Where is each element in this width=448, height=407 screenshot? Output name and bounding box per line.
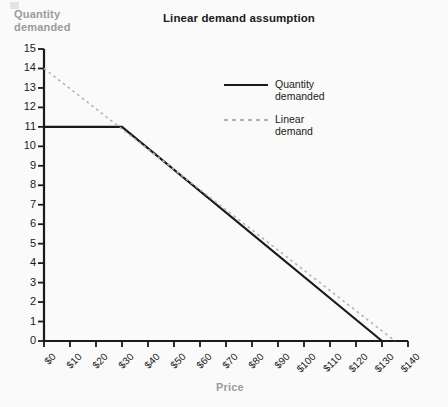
- chart-plot-area: [0, 0, 448, 407]
- y-tick-label: 13: [14, 81, 36, 93]
- legend-label-linear-demand: Linear demand: [275, 113, 313, 137]
- y-tick-label: 4: [14, 256, 36, 268]
- y-tick-label: 6: [14, 217, 36, 229]
- legend-item-quantity-demanded: Quantity demanded: [224, 78, 374, 102]
- y-tick-label: 14: [14, 61, 36, 73]
- chart-panel: Linear demand assumption Quantity demand…: [0, 0, 448, 407]
- legend-label-quantity-demanded: Quantity demanded: [275, 78, 325, 102]
- chart-legend: Quantity demanded Linear demand: [224, 78, 374, 148]
- legend-item-linear-demand: Linear demand: [224, 113, 374, 137]
- y-tick-label: 7: [14, 198, 36, 210]
- y-tick-label: 1: [14, 315, 36, 327]
- y-tick-label: 11: [14, 120, 36, 132]
- y-tick-label: 2: [14, 295, 36, 307]
- y-tick-label: 12: [14, 100, 36, 112]
- y-tick-label: 5: [14, 237, 36, 249]
- y-tick-label: 9: [14, 159, 36, 171]
- y-tick-label: 0: [14, 334, 36, 346]
- y-tick-label: 8: [14, 178, 36, 190]
- legend-swatch-dashed-icon: [224, 113, 268, 127]
- legend-swatch-solid-icon: [224, 78, 268, 92]
- series-line-quantity-demanded: [44, 127, 382, 341]
- y-tick-label: 10: [14, 139, 36, 151]
- y-tick-label: 3: [14, 276, 36, 288]
- y-tick-label: 15: [14, 42, 36, 54]
